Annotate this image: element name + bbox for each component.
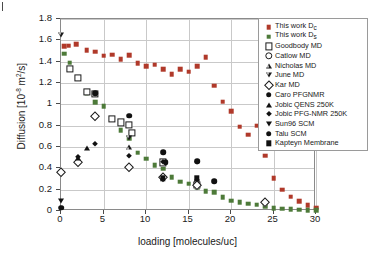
data-point	[220, 195, 225, 200]
data-point	[314, 208, 319, 213]
y-axis-tick-label: 0.8	[26, 119, 52, 130]
legend-item-label: Kar MD	[275, 80, 300, 90]
data-point	[152, 63, 157, 68]
data-point	[126, 152, 132, 158]
data-point	[203, 55, 208, 60]
marker-glyph	[266, 34, 271, 39]
legend-item-jobic-pfg-nmr-250k[interactable]: Jobic PFG-NMR 250K	[262, 109, 365, 119]
data-point	[152, 163, 157, 168]
legend-marker-icon	[262, 138, 275, 148]
legend-label-subscript: s	[314, 34, 317, 41]
marker-glyph	[265, 111, 271, 117]
gridline-vertical	[146, 19, 147, 209]
data-point	[237, 124, 242, 129]
legend-marker-icon	[262, 22, 275, 32]
legend-item-nicholas-md[interactable]: Nicholas MD	[262, 61, 365, 71]
y-axis-tick-label: 0.4	[26, 161, 52, 172]
marker-glyph	[266, 131, 272, 137]
marker-glyph	[264, 80, 273, 89]
data-point	[186, 70, 191, 75]
data-point	[135, 151, 140, 156]
legend-marker-icon	[262, 109, 275, 119]
legend-item-talu-scm[interactable]: Talu SCM	[262, 129, 365, 139]
legend-marker-icon	[262, 100, 275, 110]
x-axis-tick-label: 20	[215, 213, 245, 224]
y-axis-tick-label: 0.2	[26, 183, 52, 194]
data-point	[58, 205, 64, 211]
marker-glyph	[266, 121, 272, 126]
legend-item-catlow-md[interactable]: Catlow MD	[262, 51, 365, 61]
x-axis-title: loading [molecules/uc]	[60, 236, 315, 247]
data-point	[126, 145, 132, 150]
legend-item-caro-pfgnmr[interactable]: Caro PFGNMR	[262, 90, 365, 100]
y-axis-tick-label: 1.6	[26, 33, 52, 44]
marker-glyph	[266, 141, 271, 146]
data-point	[186, 182, 191, 187]
data-point	[74, 74, 81, 81]
data-point	[160, 150, 166, 156]
data-point	[160, 176, 165, 181]
legend-marker-icon	[262, 80, 275, 90]
figure-corner-mark	[2, 2, 3, 11]
x-axis-tick-label: 5	[88, 213, 118, 224]
data-point	[84, 145, 90, 150]
x-axis-tick-label: 15	[173, 213, 203, 224]
legend-item-label: Jobic QENS 250K	[275, 100, 334, 110]
data-point	[254, 202, 259, 207]
data-point	[58, 199, 64, 204]
chart-legend[interactable]: This work DcThis work DsGoodbody MDCatlo…	[258, 18, 368, 151]
data-point	[194, 176, 199, 181]
data-point	[211, 178, 217, 184]
data-point	[161, 167, 166, 172]
legend-item-label: Jobic PFG-NMR 250K	[275, 109, 347, 119]
data-point	[144, 64, 149, 69]
marker-glyph	[266, 25, 271, 30]
data-point	[62, 51, 67, 56]
data-point	[229, 199, 234, 204]
data-point	[127, 53, 132, 58]
legend-item-kapteyn-membrane[interactable]: Kapteyn Membrane	[262, 138, 365, 148]
data-point	[66, 43, 71, 48]
legend-marker-icon	[262, 129, 275, 139]
data-point	[93, 100, 98, 105]
legend-item-jobic-qens-250k[interactable]: Jobic QENS 250K	[262, 100, 365, 110]
gridline-horizontal	[61, 168, 314, 169]
data-point	[297, 199, 302, 204]
y-axis-tick-label: 1.2	[26, 76, 52, 87]
legend-marker-icon	[262, 32, 275, 42]
data-point	[297, 207, 302, 212]
data-point	[92, 141, 98, 147]
data-point	[246, 132, 251, 137]
gridline-vertical	[104, 19, 105, 209]
data-point	[124, 162, 133, 171]
legend-item-label: June MD	[275, 70, 304, 80]
legend-marker-icon	[262, 61, 275, 71]
data-point	[169, 175, 174, 180]
data-point	[125, 122, 132, 129]
legend-item-label: Talu SCM	[275, 129, 307, 139]
legend-item-june-md[interactable]: June MD	[262, 70, 365, 80]
legend-item-this-work-d[interactable]: This work Ds	[262, 32, 365, 42]
data-point	[92, 90, 98, 96]
data-point	[212, 190, 217, 195]
marker-glyph	[266, 73, 272, 78]
data-point	[126, 113, 132, 119]
y-axis-tick-label: 0.6	[26, 140, 52, 151]
legend-item-label: Catlow MD	[275, 51, 311, 61]
x-axis-tick-label: 25	[258, 213, 288, 224]
data-point	[305, 208, 310, 213]
legend-item-sun96-scm[interactable]: Sun96 SCM	[262, 119, 365, 129]
data-point	[229, 109, 234, 114]
legend-marker-icon	[262, 70, 275, 80]
legend-item-goodbody-md[interactable]: Goodbody MD	[262, 41, 365, 51]
x-axis-tick-label: 10	[130, 213, 160, 224]
legend-marker-icon	[262, 119, 275, 129]
gridline-vertical	[189, 19, 190, 209]
data-point	[110, 52, 115, 57]
data-point	[195, 64, 200, 69]
legend-item-kar-md[interactable]: Kar MD	[262, 80, 365, 90]
marker-glyph	[265, 52, 272, 59]
data-point	[101, 54, 106, 59]
data-point	[135, 61, 140, 66]
data-point	[126, 136, 132, 141]
